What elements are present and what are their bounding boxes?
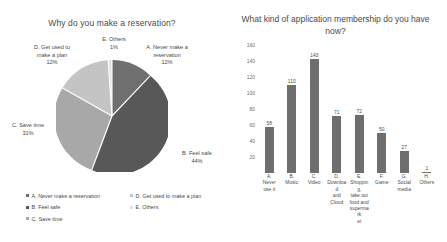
legend-item-label: B. Feel safe [32,204,61,210]
bar-chart-title: What kind of application membership do y… [232,14,439,37]
y-axis-tick-label: 20 [250,155,255,160]
y-axis-tick-label: 160 [247,43,255,48]
pie-svg [56,60,168,172]
bar-value-label: 27 [402,145,407,150]
y-axis-tick-label: 140 [247,59,255,64]
legend-item-label: C. Save time [32,216,63,222]
y-axis-tick-label: 60 [250,123,255,128]
x-axis-tick-label: H.Others [416,174,439,225]
y-axis-tick-label: 40 [250,139,255,144]
pie-chart-graphic [56,60,168,172]
bar-column: 71 [326,45,349,173]
bar-chart-plot-area: 16014012010080604020 58110143717250271 [258,45,438,173]
legend-item: B. Feel safe [26,202,100,214]
legend-item: C. Save time [26,213,100,225]
y-axis-tick-label: 120 [247,75,255,80]
bar-chart-panel: What kind of application membership do y… [224,0,447,242]
pie-label-others: E. Others 1% [86,36,142,51]
legend-item: A. Never make a reservation [26,190,100,202]
bar-rect [287,85,296,173]
bar-rect [355,115,364,173]
bar-value-label: 143 [310,53,318,58]
legend-item-label: E. Others [136,204,159,210]
pie-label-save-time: C. Save time 31% [2,122,54,137]
bar-column: 72 [348,45,371,173]
bar-series: 58110143717250271 [258,45,438,173]
x-axis-tick-label: F.Game [371,174,394,225]
bar-column: 27 [393,45,416,173]
bar-value-label: 72 [357,109,362,114]
legend-swatch-icon [26,194,29,197]
legend-swatch-icon [130,194,133,197]
legend-item-label: A. Never make a reservation [32,193,100,199]
pie-legend-column-right: D. Get used to make a plan E. Others [130,190,201,213]
bar-value-label: 50 [379,127,384,132]
x-axis-tick-label: C.Video [303,174,326,225]
x-axis-tick-labels: A.Neveruse itB.MusicC.VideoD.Downloadand… [258,174,438,225]
x-axis-tick-label: A.Neveruse it [258,174,281,225]
bar-value-label: 1 [425,166,428,171]
bar-column: 50 [371,45,394,173]
legend-swatch-icon [130,206,133,209]
bar-column: 143 [303,45,326,173]
bar-rect [265,127,274,173]
bar-value-label: 110 [288,79,296,84]
pie-chart-panel: Why do you make a reservation? E. Others… [0,0,224,242]
pie-label-get-used-to-make-a-plan: D. Get used to make a plan 12% [22,44,82,67]
bar-value-label: 58 [267,121,272,126]
bar-rect [332,116,341,173]
legend-item: E. Others [130,202,201,214]
bar-column: 110 [281,45,304,173]
x-axis-tick-label: B.Music [281,174,304,225]
legend-item-label: D. Get used to make a plan [136,193,202,199]
x-axis-tick-label: G.Socialmedia [393,174,416,225]
y-axis-tick-label: 100 [247,91,255,96]
bar-rect [400,151,409,173]
bar-column: 1 [416,45,439,173]
x-axis-tick-label: D.Downloadand Cloud [326,174,349,225]
y-axis-tick-label: 80 [250,107,255,112]
legend-swatch-icon [26,217,29,220]
bar-column: 58 [258,45,281,173]
pie-label-feel-safe: B. Feel safe 44% [172,150,222,165]
pie-legend: A. Never make a reservation B. Feel safe… [26,190,216,236]
legend-swatch-icon [26,206,29,209]
pie-chart-title: Why do you make a reservation? [0,18,224,28]
bar-rect [377,133,386,173]
bar-value-label: 71 [334,110,339,115]
bar-rect [422,172,431,173]
pie-legend-column-left: A. Never make a reservation B. Feel safe… [26,190,100,225]
pie-label-never-make-a-reservation: A. Never make a reservation 12% [136,44,198,67]
bar-rect [310,59,319,173]
legend-item: D. Get used to make a plan [130,190,201,202]
x-axis-tick-label: E.Shopping,take outfood andsupermarket [348,174,371,225]
